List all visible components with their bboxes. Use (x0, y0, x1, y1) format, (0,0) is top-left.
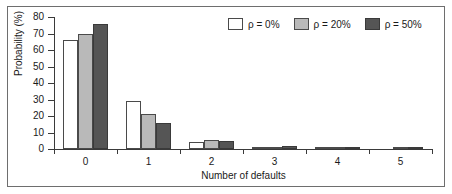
legend-label: ρ = 20% (314, 19, 351, 30)
bar (282, 146, 297, 149)
bar-series-layer (54, 17, 432, 149)
bar (252, 147, 267, 149)
x-axis-title: Number of defaults (54, 170, 433, 181)
bar (315, 147, 330, 149)
bar (78, 34, 93, 150)
bar (267, 147, 282, 149)
legend-swatch-icon (228, 18, 243, 30)
x-tick-label: 1 (129, 156, 169, 167)
legend-item: ρ = 0% (228, 18, 280, 30)
bar (141, 114, 156, 149)
x-tick-label: 0 (66, 156, 106, 167)
x-tick-label: 3 (255, 156, 295, 167)
bar (408, 147, 423, 149)
x-tick-mark (54, 150, 55, 154)
bar (63, 40, 78, 149)
bar (345, 147, 360, 149)
legend-label: ρ = 50% (385, 19, 422, 30)
x-tick-mark (306, 150, 307, 154)
legend-item: ρ = 20% (294, 18, 351, 30)
bar (93, 24, 108, 149)
x-tick-mark (180, 150, 181, 154)
x-tick-mark (432, 150, 433, 154)
bar (393, 147, 408, 149)
y-axis-title: Probability (%) (13, 0, 24, 104)
bar (330, 147, 345, 149)
bar (126, 101, 141, 149)
y-tick-label: 0 (0, 144, 44, 154)
figure-container: 01020304050607080 Probability (%) 012345… (0, 0, 452, 194)
legend-swatch-icon (294, 18, 309, 30)
legend-label: ρ = 0% (248, 19, 280, 30)
y-tick-label: 10 (0, 128, 44, 138)
x-tick-mark (117, 150, 118, 154)
x-tick-mark (369, 150, 370, 154)
x-tick-label: 2 (192, 156, 232, 167)
legend-swatch-icon (365, 18, 380, 30)
bar (189, 142, 204, 149)
x-tick-label: 4 (318, 156, 358, 167)
y-tick-label: 20 (0, 111, 44, 121)
legend-item: ρ = 50% (365, 18, 422, 30)
bar (219, 141, 234, 149)
bar (156, 123, 171, 149)
bar (204, 140, 219, 149)
x-tick-mark (243, 150, 244, 154)
x-tick-label: 5 (381, 156, 421, 167)
legend: ρ = 0%ρ = 20%ρ = 50% (228, 18, 422, 30)
